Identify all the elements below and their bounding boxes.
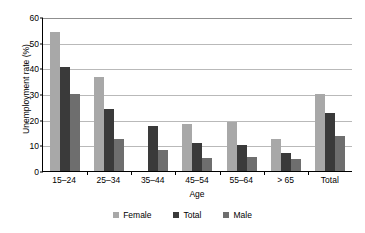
- plot-area: 0102030405060: [42, 18, 352, 172]
- bar-group: [308, 18, 352, 171]
- bar-slot: [114, 18, 124, 171]
- legend-item-male[interactable]: Male: [223, 210, 251, 220]
- bar-slot: [104, 18, 114, 171]
- y-axis-tick-label: 20: [30, 116, 39, 125]
- bar-slot: [148, 18, 158, 171]
- legend-item-female[interactable]: Female: [113, 210, 151, 220]
- legend-label: Female: [123, 210, 151, 220]
- bar: [202, 158, 212, 171]
- bar-slot: [247, 18, 257, 171]
- bar: [227, 122, 237, 171]
- bar-slot: [271, 18, 281, 171]
- bar-slot: [94, 18, 104, 171]
- bar-slot: [291, 18, 301, 171]
- bar-slot: [182, 18, 192, 171]
- bar: [281, 153, 291, 171]
- bar: [192, 143, 202, 171]
- legend-item-total[interactable]: Total: [173, 210, 201, 220]
- x-axis-tick-label: 25–34: [86, 175, 130, 185]
- bar-group: [220, 18, 264, 171]
- legend-label: Total: [183, 210, 201, 220]
- bar: [182, 124, 192, 171]
- chart-legend: FemaleTotalMale: [0, 210, 365, 220]
- bar: [315, 94, 325, 171]
- x-axis-title: Age: [42, 189, 352, 199]
- bar-slot: [70, 18, 80, 171]
- bar: [325, 113, 335, 171]
- bar-groups: [43, 18, 352, 171]
- bar: [237, 145, 247, 171]
- bar-slot: [138, 18, 148, 171]
- bar: [114, 139, 124, 171]
- y-axis-tick-label: 60: [30, 14, 39, 23]
- x-axis-tick-label: 35–44: [131, 175, 175, 185]
- bar-slot: [192, 18, 202, 171]
- legend-label: Male: [233, 210, 251, 220]
- bar-slot: [202, 18, 212, 171]
- x-axis-tick-label: 55–64: [219, 175, 263, 185]
- bar: [70, 94, 80, 171]
- bar-slot: [227, 18, 237, 171]
- bar-group: [43, 18, 87, 171]
- bar: [104, 109, 114, 171]
- x-axis-tick-label: > 65: [263, 175, 307, 185]
- bar-group: [87, 18, 131, 171]
- bar-slot: [315, 18, 325, 171]
- bar-group: [131, 18, 175, 171]
- bar-slot: [335, 18, 345, 171]
- bar-group: [175, 18, 219, 171]
- y-axis-tick-label: 0: [34, 168, 39, 177]
- bar: [94, 77, 104, 171]
- x-axis-tick-labels: 15–2425–3435–4445–5455–64> 65Total: [42, 175, 352, 185]
- legend-swatch-icon: [223, 212, 229, 218]
- x-axis-tick-label: Total: [308, 175, 352, 185]
- legend-swatch-icon: [113, 212, 119, 218]
- y-axis-tick-label: 30: [30, 91, 39, 100]
- bar: [247, 157, 257, 171]
- bar: [335, 136, 345, 171]
- bar-slot: [50, 18, 60, 171]
- bar-slot: [158, 18, 168, 171]
- x-axis-tick-label: 15–24: [42, 175, 86, 185]
- y-axis-tick-label: 10: [30, 142, 39, 151]
- bar-slot: [281, 18, 291, 171]
- bar-slot: [325, 18, 335, 171]
- bar: [50, 32, 60, 171]
- x-axis-tick-label: 45–54: [175, 175, 219, 185]
- y-axis-tick-mark: [40, 172, 43, 173]
- bar: [158, 150, 168, 171]
- bar: [271, 139, 281, 171]
- bar-slot: [60, 18, 70, 171]
- y-axis-tick-label: 40: [30, 65, 39, 74]
- bar: [148, 126, 158, 171]
- unemployment-rate-bar-chart: Unemployment rate (%) 0102030405060 15–2…: [0, 0, 365, 233]
- bar: [291, 159, 301, 171]
- bar-slot: [237, 18, 247, 171]
- bar-group: [264, 18, 308, 171]
- legend-swatch-icon: [173, 212, 179, 218]
- y-axis-tick-label: 50: [30, 39, 39, 48]
- bar: [60, 67, 70, 171]
